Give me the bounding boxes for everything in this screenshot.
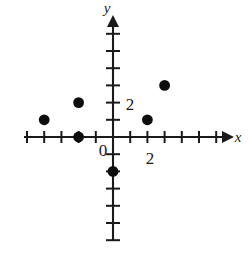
origin-label: 0 [99,141,108,160]
x-axis-arrowhead [222,131,234,143]
data-point [39,114,50,125]
data-point [108,166,119,177]
y-axis-arrowhead [107,15,119,27]
data-point [73,132,84,143]
x-axis-label: x [234,129,242,145]
coordinate-plane: y x 0 2 2 [0,0,252,256]
x-axis-group [24,131,234,143]
y-axis-tick-label-2: 2 [126,95,135,114]
data-point [142,114,153,125]
data-point [73,97,84,108]
x-axis-tick-label-2: 2 [146,149,155,168]
data-point [159,80,170,91]
scatter-plot-figure: y x 0 2 2 [0,0,252,256]
y-axis-label: y [102,0,111,16]
